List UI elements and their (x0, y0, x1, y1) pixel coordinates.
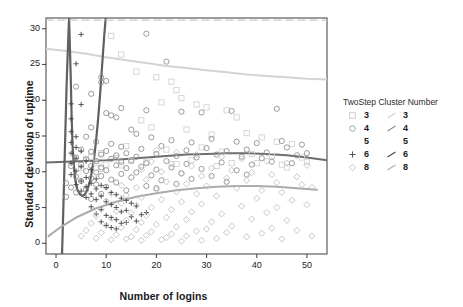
data-point (139, 212, 144, 217)
data-point (89, 125, 94, 130)
data-point (244, 131, 249, 136)
y-tick-label: 0 (14, 237, 40, 247)
data-point (198, 237, 204, 243)
plus-legend-icon (347, 149, 358, 160)
legend-label: 8 (403, 162, 408, 173)
line-icon (388, 152, 396, 157)
data-point (124, 151, 129, 156)
legend-line-row-4[interactable]: 4 (386, 123, 408, 134)
data-point (259, 156, 264, 161)
data-point (143, 177, 149, 183)
data-point (84, 175, 89, 180)
data-point (259, 187, 265, 193)
data-point (208, 219, 214, 225)
data-point (104, 148, 109, 153)
data-point (249, 216, 255, 222)
data-point (94, 197, 99, 202)
legend-key (347, 162, 358, 173)
data-point (284, 165, 289, 170)
legend-marker-row-4[interactable]: 4 (347, 123, 369, 134)
data-point (74, 182, 79, 187)
data-point (104, 168, 109, 173)
legend-key (347, 136, 358, 147)
data-point (244, 177, 250, 183)
data-point (99, 219, 104, 224)
circle-icon (350, 126, 356, 132)
legend-key (386, 123, 397, 134)
y-tick-label: 30 (14, 23, 40, 33)
data-point (299, 182, 305, 188)
legend-key (386, 162, 397, 173)
legend-marker-row-5[interactable]: 5 (347, 136, 369, 147)
legend-marker-column: 34568 (347, 110, 369, 173)
data-point (94, 170, 99, 175)
data-point (168, 231, 174, 237)
legend-label: 5 (403, 136, 408, 147)
data-point (168, 207, 174, 213)
data-point (99, 173, 104, 178)
data-point (154, 75, 159, 80)
series-3 (79, 33, 310, 171)
data-point (183, 181, 189, 187)
data-point (209, 173, 214, 178)
data-point (174, 181, 179, 186)
data-point (79, 148, 84, 153)
data-point (198, 201, 204, 207)
data-point (99, 152, 104, 157)
x-tick-label: 30 (193, 260, 221, 270)
data-point (68, 172, 73, 177)
data-point (164, 147, 169, 152)
data-point (254, 195, 260, 201)
y-tick-label: 15 (14, 130, 40, 140)
data-point (104, 213, 109, 218)
data-point (89, 191, 94, 196)
data-point (144, 31, 149, 36)
data-point (163, 214, 169, 220)
data-point (184, 127, 189, 132)
data-point (188, 209, 194, 215)
legend-marker-row-6[interactable]: 6 (347, 149, 369, 160)
data-point (144, 108, 149, 113)
data-point (139, 146, 144, 151)
legend-marker-row-8[interactable]: 8 (347, 162, 369, 173)
data-point (89, 149, 94, 154)
data-point (304, 151, 309, 156)
line-legend-icon (386, 149, 397, 160)
data-point (149, 135, 154, 140)
data-point (159, 100, 164, 105)
data-point (119, 221, 124, 226)
data-point (149, 125, 154, 130)
data-point (239, 203, 245, 209)
data-point (109, 33, 114, 38)
data-point (74, 61, 79, 66)
data-point (239, 156, 245, 162)
line-legend-icon (386, 162, 397, 173)
circle-legend-icon (347, 123, 358, 134)
data-point (178, 238, 184, 244)
legend-label: 6 (364, 149, 369, 160)
legend-line-row-5[interactable]: 5 (386, 136, 408, 147)
data-point (68, 101, 73, 106)
legend-label: 5 (364, 136, 369, 147)
data-point (199, 166, 204, 171)
data-point (83, 227, 89, 233)
data-point (269, 159, 274, 164)
data-point (129, 127, 134, 132)
legend-line-row-3[interactable]: 3 (386, 110, 408, 121)
legend-line-row-8[interactable]: 8 (386, 162, 408, 173)
data-point (189, 176, 194, 181)
data-point (89, 196, 94, 201)
legend-key (386, 110, 397, 121)
data-point (99, 193, 104, 198)
data-point (74, 145, 79, 150)
data-point (224, 229, 230, 235)
data-point (134, 170, 139, 175)
data-point (78, 233, 84, 239)
legend-marker-row-3[interactable]: 3 (347, 110, 369, 121)
data-point (74, 134, 79, 139)
data-point (274, 139, 279, 144)
data-point (279, 236, 285, 242)
line-legend-icon (386, 123, 397, 134)
legend-line-row-6[interactable]: 6 (386, 149, 408, 160)
data-point (183, 217, 189, 223)
